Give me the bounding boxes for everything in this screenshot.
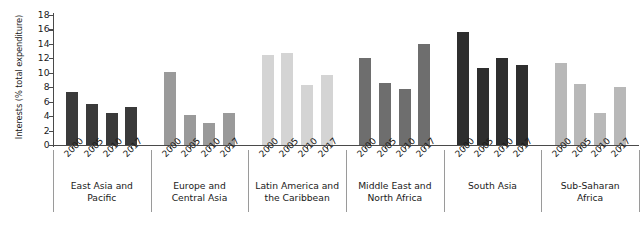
- y-axis-tick-label: 16: [38, 23, 50, 34]
- y-axis-tick-mark: [49, 73, 53, 74]
- group-label: South Asia: [444, 180, 542, 192]
- bar: [477, 68, 489, 145]
- group-separator: [53, 150, 54, 212]
- bar: [281, 53, 293, 145]
- y-axis-tick-mark: [49, 87, 53, 88]
- bar: [321, 75, 333, 145]
- bar-chart: Interests (% total expenditure) 02468101…: [0, 0, 641, 227]
- group-label: Europe and Central Asia: [151, 180, 249, 203]
- group-label: East Asia and Pacific: [53, 180, 151, 203]
- bar: [359, 58, 371, 145]
- y-axis-tick-label: 14: [38, 38, 50, 49]
- y-axis-tick-mark: [49, 44, 53, 45]
- bar: [496, 58, 508, 145]
- y-axis-tick-mark: [49, 145, 53, 146]
- group-label: Latin America and the Caribbean: [248, 180, 346, 203]
- y-axis-tick-mark: [49, 58, 53, 59]
- bar: [555, 63, 567, 145]
- y-axis-tick-label: 18: [38, 9, 50, 20]
- bar: [418, 44, 430, 145]
- y-axis-title: Interests (% total expenditure): [14, 7, 24, 147]
- y-axis-tick-mark: [49, 131, 53, 132]
- y-axis-tick-mark: [49, 29, 53, 30]
- group-label: Middle East and North Africa: [346, 180, 444, 203]
- y-axis-tick-mark: [49, 15, 53, 16]
- bar: [262, 55, 274, 145]
- group-separator: [639, 150, 640, 212]
- y-axis-tick-label: 10: [38, 67, 50, 78]
- y-axis-tick-mark: [49, 116, 53, 117]
- bar: [164, 72, 176, 145]
- bar: [516, 65, 528, 145]
- bar: [457, 32, 469, 145]
- y-axis-tick-label: 12: [38, 52, 50, 63]
- bar: [379, 83, 391, 145]
- plot-area: 024681012141618: [53, 15, 639, 145]
- y-axis-tick-mark: [49, 102, 53, 103]
- group-label: Sub-Saharan Africa: [541, 180, 639, 203]
